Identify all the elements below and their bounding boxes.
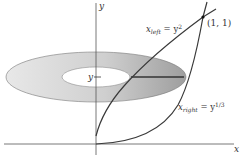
x-axis-label: x xyxy=(234,144,239,154)
svg-text:y: y xyxy=(87,72,94,82)
intersection-point xyxy=(201,15,204,18)
y-axis-label: y xyxy=(98,1,105,11)
curve-left-label: xleft = y2 xyxy=(146,23,182,36)
washer-diagram: y x (1, 1) y xleft = y2 xright = y1/3 xyxy=(0,0,240,155)
curve-right-label: xright = y1/3 xyxy=(178,101,225,114)
point-label: (1, 1) xyxy=(207,18,231,28)
